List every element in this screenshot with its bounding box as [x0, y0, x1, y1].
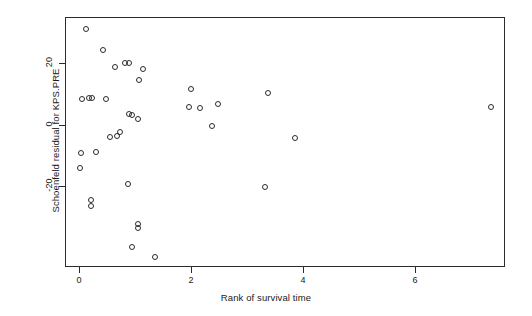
- x-tick-label: 4: [288, 275, 318, 285]
- y-axis-title: Schoenfeld residual for KPS.PRE: [50, 16, 61, 266]
- data-point: [103, 96, 109, 102]
- data-point: [89, 95, 95, 101]
- data-point: [88, 203, 94, 209]
- data-point: [112, 64, 118, 70]
- plot-area: [65, 17, 505, 267]
- data-point: [107, 134, 113, 140]
- data-point: [215, 101, 221, 107]
- data-point: [135, 116, 141, 122]
- x-tick-label: 2: [176, 275, 206, 285]
- x-tick-mark: [191, 267, 192, 273]
- data-point: [93, 149, 99, 155]
- data-point: [117, 129, 123, 135]
- x-tick-mark: [415, 267, 416, 273]
- data-point: [488, 104, 494, 110]
- data-point: [88, 197, 94, 203]
- data-point: [122, 60, 128, 66]
- x-tick-mark: [303, 267, 304, 273]
- x-axis-title: Rank of survival time: [0, 292, 532, 303]
- x-tick-label: 6: [400, 275, 430, 285]
- data-point: [79, 96, 85, 102]
- data-point: [262, 184, 268, 190]
- data-point: [135, 225, 141, 231]
- scatter-plot-figure: 0 2 4 6 20 0 -20 Rank of survival time S…: [0, 0, 532, 316]
- data-point: [136, 77, 142, 83]
- data-point: [186, 104, 192, 110]
- data-point: [140, 66, 146, 72]
- x-tick-label: 0: [64, 275, 94, 285]
- x-tick-mark: [79, 267, 80, 273]
